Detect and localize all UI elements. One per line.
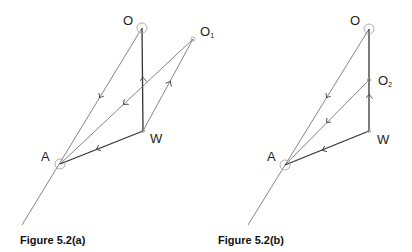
label-o2: O2 (378, 74, 392, 88)
label-o2-sub: 2 (388, 81, 392, 88)
figure-b-diagram (248, 24, 374, 225)
line-w-o1 (143, 39, 193, 131)
line-o2-a (285, 80, 369, 165)
label-a-b: A (267, 150, 276, 163)
figure-a-diagram (22, 23, 195, 225)
label-o-b: O (350, 14, 360, 27)
line-w-a (285, 131, 369, 165)
label-w-b: W (377, 133, 389, 146)
line-o-a (248, 29, 369, 225)
label-o2-main: O (378, 73, 388, 88)
label-w-a: W (150, 132, 162, 145)
caption-figure-a: Figure 5.2(a) (20, 234, 85, 246)
label-o1-main: O (200, 24, 210, 39)
caption-figure-b: Figure 5.2(b) (218, 234, 284, 246)
line-w-a (60, 131, 143, 164)
label-o-a: O (123, 14, 133, 27)
line-o-a (22, 28, 142, 225)
label-a-a: A (41, 150, 50, 163)
line-o1-a (60, 39, 193, 164)
label-o1-sub: 1 (210, 32, 214, 39)
label-o1: O1 (200, 25, 214, 39)
line-w-o (142, 28, 143, 131)
